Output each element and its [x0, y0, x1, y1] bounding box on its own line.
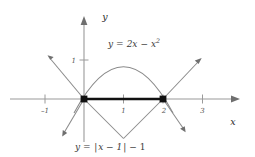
math-figure: –1 1 2 3 1 y x y=2x−x2 — [0, 0, 255, 157]
absolute-eq-bar-open: | — [94, 142, 97, 153]
svg-text:y=2x−x2: y=2x−x2 — [107, 37, 160, 49]
absolute-eq-one: 1 — [140, 142, 146, 152]
parabola-eq-minus: − — [140, 39, 148, 49]
parabola-eq-term1: 2x — [126, 39, 138, 49]
point-marker-origin — [81, 96, 88, 103]
descending-line-right — [163, 99, 186, 132]
parabola-eq-lhs: y — [107, 39, 114, 49]
absolute-eq-inner: x − 1 — [98, 142, 122, 152]
x-axis-arrowhead — [231, 96, 240, 103]
tick-label-x-2: 2 — [161, 107, 167, 115]
tick-label-x-1: 1 — [121, 107, 125, 115]
y-axis-arrowhead — [81, 16, 88, 25]
x-axis-label: x — [230, 116, 236, 127]
y-axis-label: y — [101, 11, 108, 22]
parabola-equation-label: y=2x−x2 — [107, 37, 160, 49]
absolute-equation-label: y=|x − 1|−1 — [74, 142, 146, 153]
absolute-eq-sign: = — [83, 142, 91, 152]
parabola-eq-term2-exp: 2 — [155, 37, 160, 44]
tick-label-y-1: 1 — [72, 57, 76, 65]
tick-label-x-minus-1: –1 — [41, 107, 49, 115]
y-axis — [81, 16, 88, 142]
arrowhead-upper-left — [48, 55, 54, 60]
arrowhead-upper-right — [195, 58, 202, 64]
absolute-eq-minus: − — [129, 142, 137, 152]
point-marker-x2 — [160, 96, 167, 103]
absolute-eq-lhs: y — [74, 142, 81, 152]
absolute-eq-bar-close: | — [123, 142, 126, 153]
svg-text:y=|x − 1|−1: y=|x − 1|−1 — [74, 142, 146, 153]
tick-label-x-3: 3 — [200, 107, 205, 115]
descending-line-left — [62, 99, 84, 136]
parabola-eq-sign: = — [116, 39, 124, 49]
